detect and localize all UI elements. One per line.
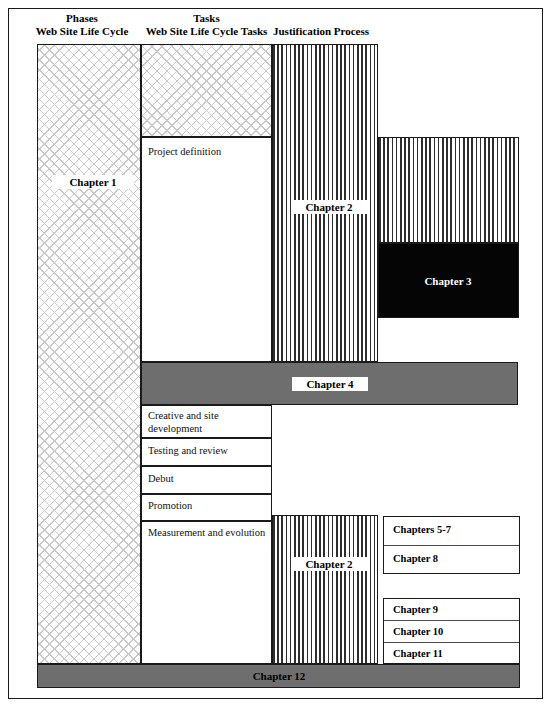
column-header-justification: Justification Process (273, 25, 381, 38)
justification-chapter2-lower-block (272, 515, 378, 664)
tasks-item-promotion: Promotion (148, 500, 268, 513)
chapter12-label: Chapter 12 (244, 670, 314, 682)
tasks-item-project-definition: Project definition (148, 146, 268, 159)
diagram-canvas: Phases Web Site Life Cycle Tasks Web Sit… (0, 0, 551, 707)
right-box-chapter-10: Chapter 10 (393, 626, 443, 637)
right-box-chapter-11: Chapter 11 (393, 648, 443, 659)
tasks-hatched-top-block (141, 44, 272, 137)
right-box-group-upper-divider (384, 545, 519, 546)
column-header-justification-line2: Justification Process (273, 25, 381, 38)
phases-chapter1-block (37, 44, 141, 664)
column-header-tasks-line2: Web Site Life Cycle Tasks (141, 25, 272, 38)
right-box-chapter-9: Chapter 9 (393, 604, 438, 615)
phases-chapter1-label: Chapter 1 (52, 175, 134, 189)
right-box-chapters-5-7: Chapters 5-7 (393, 524, 451, 535)
tasks-item-creative-and-site-development: Creative and site development (148, 410, 248, 435)
justification-chapter2-lower-label: Chapter 2 (291, 557, 367, 571)
justification-chapter2-upper-label: Chapter 2 (291, 200, 367, 214)
tasks-row-measurement (141, 521, 272, 664)
column-header-phases-line1: Phases (22, 12, 142, 25)
justification-striped-wing-block (378, 137, 519, 243)
right-box-group-lower-divider-1 (384, 620, 519, 621)
column-header-tasks: Tasks Web Site Life Cycle Tasks (141, 12, 272, 38)
column-header-tasks-line1: Tasks (141, 12, 272, 25)
right-box-group-lower-divider-2 (384, 642, 519, 643)
right-box-chapter-8: Chapter 8 (393, 553, 438, 564)
tasks-item-measurement-and-evolution: Measurement and evolution (148, 527, 272, 540)
chapter3-label: Chapter 3 (408, 275, 488, 287)
tasks-project-definition-cell (141, 137, 272, 362)
tasks-item-debut: Debut (148, 473, 268, 486)
tasks-item-testing-and-review: Testing and review (148, 445, 268, 458)
column-header-phases-line2: Web Site Life Cycle (22, 25, 142, 38)
chapter4-label: Chapter 4 (292, 377, 368, 391)
column-header-phases: Phases Web Site Life Cycle (22, 12, 142, 38)
